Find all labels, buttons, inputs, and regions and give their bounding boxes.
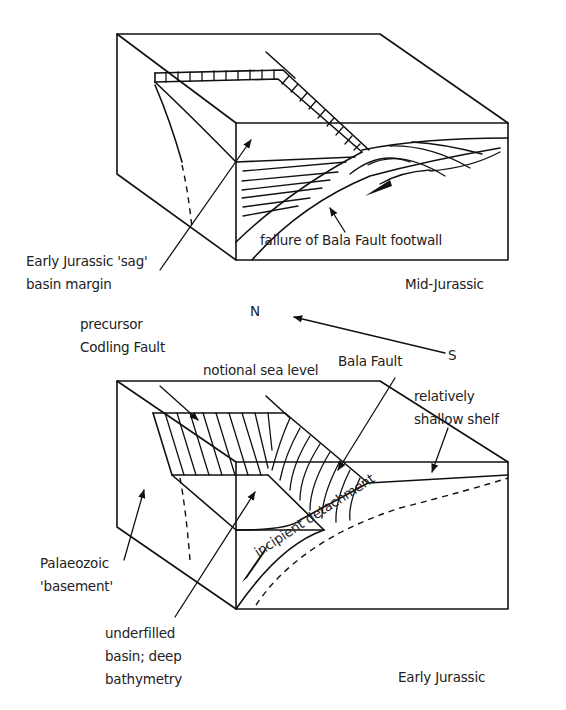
label-basin-2: basin; deep (105, 645, 182, 668)
label-sag-margin-2: basin margin (26, 273, 112, 296)
compass-arrow (294, 317, 445, 353)
label-shelf-1: relatively (414, 385, 475, 408)
slip-arrow-icon (365, 180, 392, 196)
label-sea-level: notional sea level (203, 359, 318, 382)
label-shelf-2: shallow shelf (414, 408, 499, 431)
label-codling-1: precursor (80, 313, 143, 336)
label-sag-margin-1: Early Jurassic 'sag' (26, 250, 148, 273)
compass-south: S (448, 344, 456, 367)
label-codling-2: Codling Fault (80, 336, 165, 359)
period-label-mid-jurassic: Mid-Jurassic (405, 273, 484, 296)
codling-hatch (165, 413, 272, 475)
plateau-hatch (166, 70, 360, 150)
label-basin-1: underfilled (105, 622, 175, 645)
label-bala-fault: Bala Fault (338, 350, 402, 373)
label-basin-3: bathymetry (105, 668, 182, 691)
compass-north: N (250, 300, 260, 323)
label-basement-2: 'basement' (40, 575, 113, 598)
label-footwall-failure: failure of Bala Fault footwall (260, 229, 442, 252)
period-label-early-jurassic: Early Jurassic (398, 666, 485, 689)
label-basement-1: Palaeozoic (40, 552, 109, 575)
